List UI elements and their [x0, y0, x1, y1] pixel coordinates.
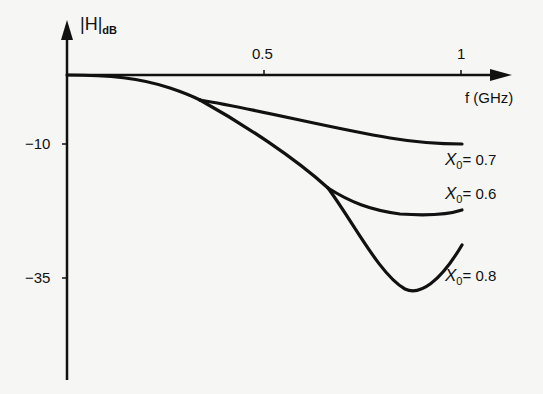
x-tick-label-0.5: 0.5 — [252, 45, 273, 62]
curve-common-segment — [67, 75, 200, 100]
y-tick-label-minus-35: −35 — [25, 269, 50, 286]
curve-x0-0.6 — [328, 188, 462, 215]
x-tick-label-1: 1 — [457, 45, 465, 62]
y-axis-label: |H|dB — [80, 14, 117, 36]
y-tick-label-minus-10: −10 — [25, 135, 50, 152]
x-axis-arrow-icon — [490, 69, 512, 81]
curve-label-x0-0.8: X0= 0.8 — [445, 266, 496, 287]
y-axis-arrow-icon — [61, 20, 73, 40]
curve-label-x0-0.7: X0= 0.7 — [445, 150, 496, 171]
curve-x0-0.8 — [328, 188, 462, 291]
x-axis-label: f (GHz) — [465, 89, 513, 106]
curve-label-x0-0.6: X0= 0.6 — [445, 184, 496, 205]
